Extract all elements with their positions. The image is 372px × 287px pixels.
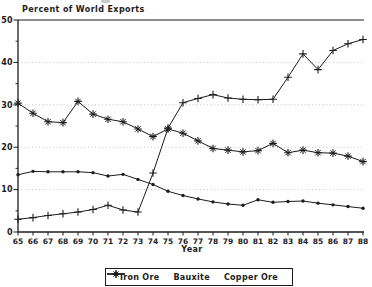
y-tick-label: 40: [1, 58, 13, 67]
legend-box: Iron Ore Bauxite Copper Ore: [105, 268, 293, 286]
y-tick-label: 30: [1, 101, 13, 110]
gridlines: [18, 20, 364, 190]
legend-item-bauxite: Bauxite: [173, 273, 209, 282]
y-tick-label: 0: [7, 228, 13, 237]
legend-item-copper-ore: Copper Ore: [224, 273, 278, 282]
legend-label-copper-ore: Copper Ore: [224, 273, 278, 282]
series-bauxite: [14, 36, 367, 223]
y-tick-label: 50: [1, 16, 13, 25]
series-copper-ore: [14, 98, 367, 166]
y-tick-label: 10: [1, 185, 13, 194]
y-tick-label: 20: [1, 143, 13, 152]
legend-label-bauxite: Bauxite: [173, 273, 209, 282]
chart-svg: 0102030405065666768697071727374757677787…: [0, 0, 372, 262]
copper-ore-marker-icon: [106, 269, 126, 279]
x-axis-title: Year: [0, 245, 372, 254]
